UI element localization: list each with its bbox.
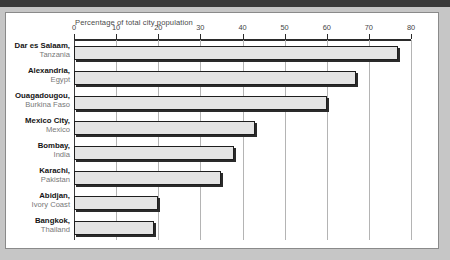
- category-label: Ouagadougou,Burkina Faso: [15, 92, 70, 110]
- country-name: Egypt: [28, 76, 70, 85]
- bar[interactable]: [74, 171, 221, 185]
- country-name: Ivory Coast: [32, 201, 70, 210]
- bar-row[interactable]: [74, 71, 411, 85]
- bar-row[interactable]: [74, 196, 411, 210]
- category-label: Dar es Salaam,Tanzania: [15, 42, 70, 60]
- category-label: Abidjan,Ivory Coast: [32, 192, 70, 210]
- category-label: Alexandria,Egypt: [28, 67, 70, 85]
- x-tick-30: [200, 34, 201, 39]
- bar-row[interactable]: [74, 121, 411, 135]
- x-tick-40: [243, 34, 244, 39]
- country-name: Tanzania: [15, 51, 70, 60]
- category-label: Bombay,India: [38, 142, 70, 160]
- x-tick-label-0: 0: [72, 23, 76, 32]
- x-tick-label-70: 70: [365, 23, 373, 32]
- bar[interactable]: [74, 96, 327, 110]
- plot-area: 01020304050607080: [74, 40, 411, 240]
- x-tick-label-40: 40: [238, 23, 246, 32]
- bar[interactable]: [74, 71, 356, 85]
- x-tick-20: [158, 34, 159, 39]
- bar-row[interactable]: [74, 96, 411, 110]
- x-tick-label-60: 60: [323, 23, 331, 32]
- bar-row[interactable]: [74, 46, 411, 60]
- bar-row[interactable]: [74, 146, 411, 160]
- bar[interactable]: [74, 196, 158, 210]
- country-name: India: [38, 151, 70, 160]
- x-tick-label-30: 30: [196, 23, 204, 32]
- chart-card: Percentage of total city population Dar …: [5, 12, 439, 249]
- x-tick-60: [327, 34, 328, 39]
- bar[interactable]: [74, 146, 234, 160]
- bar-row[interactable]: [74, 171, 411, 185]
- bar[interactable]: [74, 121, 255, 135]
- x-tick-0: [74, 34, 75, 39]
- x-tick-label-80: 80: [407, 23, 415, 32]
- bar[interactable]: [74, 221, 154, 235]
- x-tick-label-10: 10: [112, 23, 120, 32]
- window-top-strip: [0, 0, 450, 7]
- gridline-80: [411, 40, 412, 240]
- chart-title: Percentage of total city population: [75, 18, 193, 27]
- country-name: Mexico: [25, 126, 70, 135]
- country-name: Thailand: [35, 226, 70, 235]
- country-name: Pakistan: [39, 176, 70, 185]
- category-label: Bangkok,Thailand: [35, 217, 70, 235]
- x-tick-10: [116, 34, 117, 39]
- x-tick-label-50: 50: [281, 23, 289, 32]
- x-tick-50: [285, 34, 286, 39]
- bar[interactable]: [74, 46, 398, 60]
- x-tick-70: [369, 34, 370, 39]
- country-name: Burkina Faso: [15, 101, 70, 110]
- category-label: Mexico City,Mexico: [25, 117, 70, 135]
- bar-row[interactable]: [74, 221, 411, 235]
- category-label: Karachi,Pakistan: [39, 167, 70, 185]
- x-tick-label-20: 20: [154, 23, 162, 32]
- x-tick-80: [411, 34, 412, 39]
- category-label-column: Dar es Salaam,TanzaniaAlexandria,EgyptOu…: [6, 40, 70, 240]
